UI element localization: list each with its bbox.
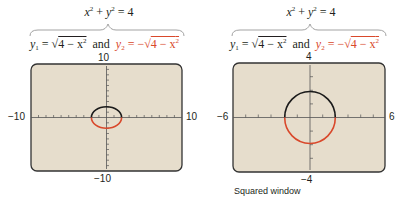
right-ymin-label: −4 <box>301 174 312 185</box>
right-brace <box>232 24 386 36</box>
left-ymax-label: 10 <box>98 52 109 63</box>
left-ymin-label: −10 <box>94 173 111 184</box>
right-xmin-label: −6 <box>217 111 228 122</box>
right-and: and <box>292 37 309 51</box>
right-eq-y1: y1 = √4 − x2 <box>230 37 286 51</box>
right-xmax-label: 6 <box>389 111 395 122</box>
left-eq-y1: y1 = √4 − x2 <box>30 37 86 51</box>
left-and: and <box>92 37 109 51</box>
squared-window-caption: Squared window <box>234 186 301 196</box>
right-graph-screen <box>233 63 385 172</box>
right-eq-y2: y2 = −√4 − x2 <box>316 37 379 51</box>
left-graph-screen <box>31 64 182 171</box>
right-function-equations: y1 = √4 − x2 and y2 = −√4 − x2 <box>230 37 379 52</box>
left-eq-y2: y2 = −√4 − x2 <box>116 37 179 51</box>
left-circle-equation: x2 + y2 = 4 <box>64 5 154 20</box>
right-ymax-label: 4 <box>306 51 312 62</box>
figure-graphics <box>0 0 420 203</box>
left-xmin-label: −10 <box>8 111 25 122</box>
left-xmax-label: 10 <box>186 111 197 122</box>
left-brace <box>30 24 184 36</box>
left-function-equations: y1 = √4 − x2 and y2 = −√4 − x2 <box>30 37 179 52</box>
right-circle-equation: x2 + y2 = 4 <box>266 5 356 20</box>
